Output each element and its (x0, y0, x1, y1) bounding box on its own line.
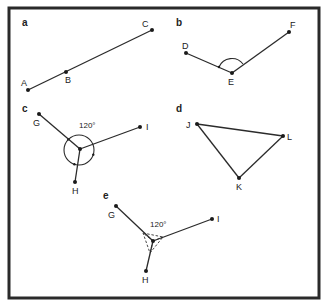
segment-KJ (197, 124, 239, 178)
point-label-I: I (146, 122, 149, 132)
figure-frame (9, 8, 319, 298)
point-center (151, 239, 155, 243)
segment-Gcenter (116, 206, 153, 241)
arc-arrowhead (218, 66, 220, 68)
point-label-L: L (287, 132, 292, 142)
point-H (144, 269, 148, 273)
point-label-G: G (108, 210, 115, 220)
panel-e: e120°GHI (103, 190, 220, 285)
point-label-J: J (186, 120, 191, 130)
point-K (237, 176, 241, 180)
point-A (26, 88, 30, 92)
point-D (184, 51, 188, 55)
panel-a: aABC (21, 17, 154, 92)
point-J (195, 122, 199, 126)
point-label-H: H (72, 186, 79, 196)
panel-label: b (176, 17, 182, 28)
segment-Gcenter (39, 114, 80, 149)
segment-EF (232, 32, 289, 73)
point-H (73, 180, 77, 184)
point-L (281, 134, 285, 138)
segment-DE (186, 53, 232, 73)
point-label-E: E (228, 77, 234, 87)
point-label-C: C (142, 19, 149, 29)
panel-label: a (22, 17, 28, 28)
angle-label: 120° (150, 220, 167, 229)
panel-d: dJLK (176, 103, 292, 192)
panels: aABCbDEFc120°GHIdJLKe120°GHI (21, 17, 296, 285)
point-F (287, 30, 291, 34)
point-B (64, 70, 68, 74)
point-I (210, 217, 214, 221)
point-G (37, 112, 41, 116)
arrow-tick (92, 153, 94, 155)
point-G (114, 204, 118, 208)
segment-AC (28, 30, 152, 90)
panel-label: c (22, 103, 28, 114)
panel-label: d (176, 103, 182, 114)
point-C (150, 28, 154, 32)
panel-c: c120°GHI (22, 103, 149, 196)
angle-arc (219, 58, 243, 67)
point-label-H: H (142, 275, 149, 285)
point-label-G: G (33, 118, 40, 128)
point-label-B: B (65, 75, 71, 85)
point-label-D: D (182, 41, 189, 51)
segment-Icenter (80, 127, 140, 149)
segment-LK (239, 136, 283, 178)
point-label-F: F (290, 20, 296, 30)
point-center (78, 147, 82, 151)
point-label-A: A (21, 78, 27, 88)
panel-label: e (103, 190, 109, 201)
segment-JL (197, 124, 283, 136)
point-E (230, 71, 234, 75)
point-label-K: K (236, 182, 242, 192)
arrow-tick (73, 163, 75, 165)
geometry-figure: aABCbDEFc120°GHIdJLKe120°GHI (0, 0, 326, 307)
panel-b: bDEF (176, 17, 296, 87)
point-I (138, 125, 142, 129)
point-label-I: I (217, 214, 220, 224)
angle-label: 120° (79, 121, 96, 130)
